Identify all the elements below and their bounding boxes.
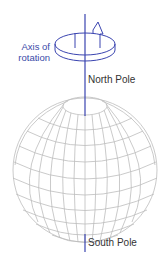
north-pole-label: North Pole: [88, 74, 135, 85]
globe-diagram: [0, 0, 166, 262]
axis-of-rotation-label: Axis of rotation: [18, 41, 50, 63]
axis-label-line2: rotation: [18, 52, 50, 63]
axis-label-line1: Axis of: [18, 41, 50, 52]
south-pole-label: South Pole: [88, 237, 137, 248]
globe-grid: [13, 97, 157, 243]
